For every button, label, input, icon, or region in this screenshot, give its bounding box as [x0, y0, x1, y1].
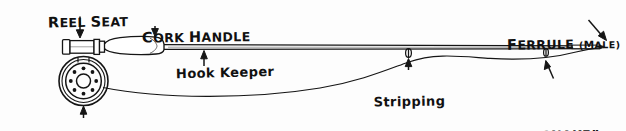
label-snake-guide: “SNAKE” Guide	[504, 81, 582, 131]
stripping-guide-part	[406, 49, 412, 58]
label-ferrule: FERRULE (MALE)	[488, 23, 621, 66]
label-hook-keeper: Hook Keeper	[176, 65, 275, 81]
label-ferrule-male: (MALE)	[579, 39, 621, 51]
fly-rod-diagram: REEL SEAT CORK HANDLE Hook Keeper REEL S…	[0, 0, 626, 131]
label-stripping-guide: Stripping Guide	[373, 67, 445, 131]
label-stripping-guide-line1: Stripping	[374, 95, 444, 110]
label-reel-seat-text: R	[48, 14, 60, 30]
reel-spool-holes	[69, 66, 98, 95]
label-ferrule-text: F	[507, 37, 518, 53]
label-cork-handle-text: C	[142, 30, 153, 46]
label-reel-seat: REEL SEAT	[29, 1, 129, 44]
reel-part	[59, 57, 108, 106]
label-reel: REEL	[62, 117, 119, 131]
label-snake-guide-line1: “SNAKE”	[504, 115, 581, 131]
label-cork-handle: CORK HANDLE	[123, 16, 251, 59]
label-reel-text: R	[81, 129, 93, 131]
